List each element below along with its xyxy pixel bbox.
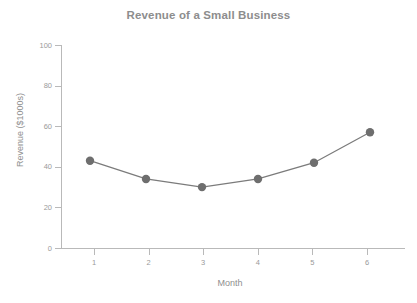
data-point (366, 128, 374, 136)
revenue-line (90, 132, 370, 187)
data-point (254, 175, 262, 183)
data-point (86, 157, 94, 165)
data-point (198, 183, 206, 191)
data-point (310, 159, 318, 167)
data-series-layer (0, 0, 417, 303)
chart-figure: Revenue of a Small Business 100 80 60 40… (0, 0, 417, 303)
data-point (142, 175, 150, 183)
revenue-markers (86, 128, 374, 191)
